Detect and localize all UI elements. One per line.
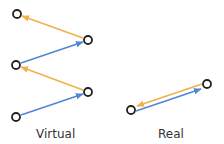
real-node-2	[203, 80, 211, 88]
real-node-1	[127, 106, 135, 114]
virtual-edges	[21, 16, 83, 115]
real-edges	[136, 84, 202, 111]
virtual-edge-blue-2	[21, 94, 83, 115]
virtual-edge-orange-2	[21, 67, 83, 90]
real-edge-orange	[137, 84, 202, 106]
virtual-edge-orange-1	[22, 16, 83, 38]
virtual-label: Virtual	[36, 127, 75, 141]
virtual-node-3	[12, 61, 20, 69]
real-edge-blue	[136, 89, 201, 111]
virtual-node-1	[13, 10, 21, 18]
virtual-edge-blue-1	[21, 42, 83, 63]
real-label: Real	[158, 127, 184, 141]
virtual-node-4	[84, 88, 92, 96]
diagram-canvas	[0, 0, 224, 144]
virtual-node-5	[12, 113, 20, 121]
virtual-node-2	[84, 36, 92, 44]
